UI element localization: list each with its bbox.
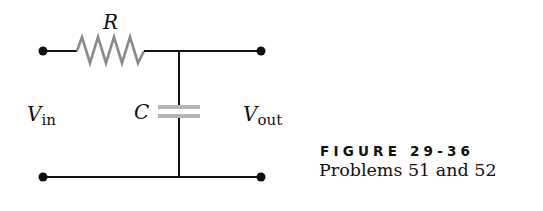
capacitor-plate-bottom — [158, 114, 200, 118]
output-terminal-bottom — [257, 173, 266, 182]
capacitor-label: C — [134, 100, 149, 124]
output-terminal-top — [257, 47, 266, 56]
input-terminal-bottom — [39, 173, 48, 182]
vin-label: Vin — [27, 102, 56, 129]
vout-label: Vout — [243, 102, 282, 129]
capacitor-plate-top — [158, 105, 200, 109]
input-terminal-top — [39, 47, 48, 56]
figure-caption: Problems 51 and 52 — [319, 160, 497, 180]
resistor — [77, 37, 144, 63]
figure-title: FIGURE 29-36 — [320, 143, 474, 159]
resistor-label: R — [102, 10, 118, 34]
